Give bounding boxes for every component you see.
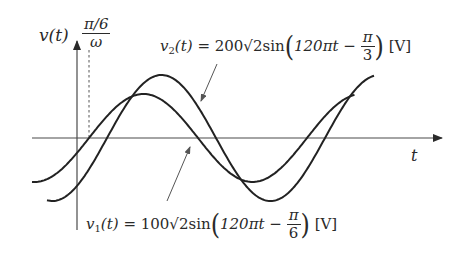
phase-marker-label: π/6 ω: [82, 17, 110, 50]
pointer-arrow-v2: [201, 64, 217, 101]
eq-v2-coefficient: 200√2sin: [215, 37, 285, 55]
equation-v1: v1(t) = 100√2sin(120πt − π6) [V]: [86, 208, 337, 241]
eq-v2-paren-open: (: [285, 30, 294, 62]
equation-v2: v2(t) = 200√2sin(120πt − π3) [V]: [160, 30, 411, 63]
eq-v1-unit: [V]: [315, 215, 338, 233]
eq-v1-equals: =: [123, 215, 136, 233]
eq-v1-paren-open: (: [211, 208, 220, 240]
eq-v1-coefficient: 100√2sin: [141, 215, 211, 233]
y-axis-label: v(t): [39, 25, 69, 45]
eq-v2-equals: =: [197, 37, 210, 55]
phase-marker-numerator: π/6: [82, 17, 110, 34]
eq-v2-paren-close: ): [375, 30, 384, 62]
phase-marker-denominator: ω: [90, 34, 102, 50]
eq-v2-phase: π3: [361, 30, 375, 63]
eq-v1-phase-num: π: [287, 208, 301, 225]
eq-v1-phase-den: 6: [289, 225, 299, 241]
eq-v2-arg: (t): [175, 37, 193, 55]
pointer-arrow-v1: [167, 147, 190, 201]
x-axis-label: t: [411, 146, 417, 165]
eq-v1-phase: π6: [287, 208, 301, 241]
eq-v1-paren-close: ): [301, 208, 310, 240]
eq-v2-phase-den: 3: [363, 47, 373, 63]
eq-v2-argument: 120πt −: [294, 37, 356, 55]
eq-v2-unit: [V]: [389, 37, 412, 55]
eq-v2-phase-num: π: [361, 30, 375, 47]
eq-v1-argument: 120πt −: [220, 215, 282, 233]
eq-v1-arg: (t): [101, 215, 119, 233]
